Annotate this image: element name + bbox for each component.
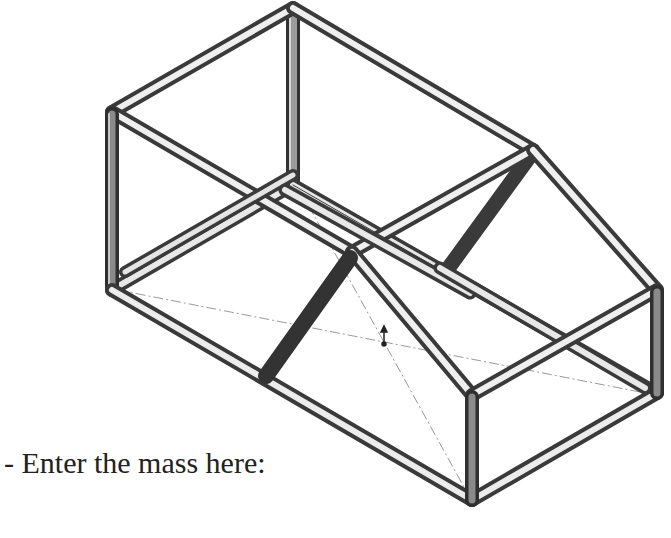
front-diagonal-brace	[266, 258, 350, 376]
frame-tubes	[109, 8, 657, 500]
right-posts	[472, 292, 657, 500]
right-bottom-crossbar	[472, 393, 657, 500]
left-front-post	[109, 114, 112, 290]
mass-entry-instruction: - Enter the mass here:	[4, 446, 266, 480]
center-of-mass-icon	[381, 326, 387, 346]
